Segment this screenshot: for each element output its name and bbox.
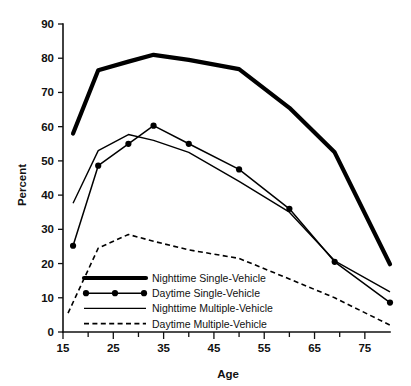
series-data-point xyxy=(236,166,242,172)
legend-item-2: Nighttime Multiple-Vehicle xyxy=(84,302,273,314)
legend-label: Nighttime Single-Vehicle xyxy=(152,272,266,284)
y-tick-label: 0 xyxy=(48,326,54,338)
x-axis-ticks: 15253545556575 xyxy=(57,332,372,354)
series-data-point xyxy=(70,243,76,249)
legend-item-3: Daytime Multiple-Vehicle xyxy=(84,318,267,330)
x-tick-label: 15 xyxy=(57,342,70,354)
y-axis-ticks: 0102030405060708090 xyxy=(41,18,63,338)
y-tick-label: 10 xyxy=(41,292,54,304)
series-data-point xyxy=(186,141,192,147)
x-tick-label: 65 xyxy=(308,342,321,354)
series-0 xyxy=(73,55,390,264)
x-tick-label: 35 xyxy=(157,342,170,354)
x-tick-label: 55 xyxy=(258,342,271,354)
legend-item-1: Daytime Single-Vehicle xyxy=(83,287,260,299)
chart-series-group xyxy=(68,55,393,325)
series-data-point xyxy=(95,163,101,169)
line-chart: 0102030405060708090 15253545556575 Night… xyxy=(0,0,411,386)
chart-legend: Nighttime Single-VehicleDaytime Single-V… xyxy=(83,272,273,330)
x-tick-label: 25 xyxy=(107,342,120,354)
legend-swatch-marker xyxy=(112,290,118,296)
y-tick-label: 70 xyxy=(41,86,54,98)
legend-item-0: Nighttime Single-Vehicle xyxy=(84,272,266,284)
legend-swatch-marker xyxy=(83,290,89,296)
y-tick-label: 80 xyxy=(41,52,54,64)
series-data-point xyxy=(125,141,131,147)
y-tick-label: 40 xyxy=(41,189,54,201)
series-data-point xyxy=(150,123,156,129)
y-tick-label: 60 xyxy=(41,121,54,133)
legend-label: Nighttime Multiple-Vehicle xyxy=(152,302,273,314)
legend-label: Daytime Multiple-Vehicle xyxy=(152,318,267,330)
series-line xyxy=(73,55,390,264)
series-data-point xyxy=(387,299,393,305)
y-axis-title: Percent xyxy=(16,164,28,206)
x-tick-label: 45 xyxy=(208,342,221,354)
y-tick-label: 30 xyxy=(41,223,54,235)
x-axis-title: Age xyxy=(217,368,239,380)
y-tick-label: 90 xyxy=(41,18,54,30)
x-tick-label: 75 xyxy=(358,342,371,354)
chart-axes xyxy=(63,24,390,332)
chart-container: 0102030405060708090 15253545556575 Night… xyxy=(0,0,411,386)
legend-label: Daytime Single-Vehicle xyxy=(152,287,260,299)
y-tick-label: 50 xyxy=(41,155,54,167)
legend-swatch-marker xyxy=(141,290,147,296)
y-tick-label: 20 xyxy=(41,258,54,270)
